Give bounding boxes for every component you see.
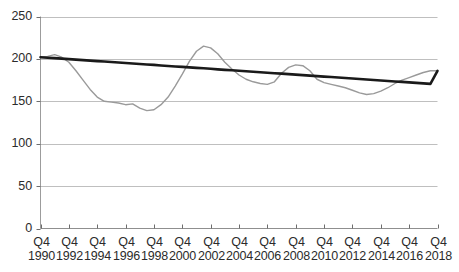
- chart-canvas: [0, 0, 459, 272]
- y-axis-label-100: 100: [0, 137, 32, 150]
- y-tick-marks: [37, 18, 41, 230]
- x-tick-marks: [42, 225, 439, 229]
- y-axis-label-150: 150: [0, 95, 32, 108]
- axis-lines: [41, 17, 438, 229]
- series-line-trend: [41, 57, 438, 84]
- data-series-layer: [41, 46, 438, 110]
- x-axis-label-2018: Q42018: [419, 235, 459, 265]
- series-line-index: [41, 46, 438, 110]
- x-label-year: 2018: [419, 249, 459, 264]
- line-chart: 250200150100500 Q41990Q41992Q41994Q41996…: [0, 0, 459, 272]
- x-label-quarter: Q4: [419, 235, 459, 250]
- gridlines: [41, 18, 438, 187]
- y-axis-label-50: 50: [0, 180, 32, 193]
- y-axis-label-250: 250: [0, 10, 32, 23]
- y-axis-label-200: 200: [0, 52, 32, 65]
- y-axis-label-0: 0: [0, 222, 32, 235]
